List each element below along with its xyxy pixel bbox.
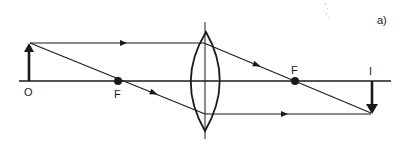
- ray-parallel-refracted: [204, 43, 371, 113]
- focal-point-right: [291, 77, 299, 85]
- ray-parallel-out-arrow-icon: [281, 111, 288, 117]
- ray-focal-arrow-icon: [149, 89, 159, 98]
- ray-refracted-arrow-icon: [252, 61, 262, 70]
- lens-ray-diagram: O F F I a): [0, 0, 404, 144]
- scan-noise: [325, 3, 329, 18]
- image-arrow-head-icon: [366, 104, 378, 114]
- image-label: I: [369, 65, 372, 77]
- panel-label: a): [377, 14, 387, 26]
- focus-right-label: F: [291, 64, 298, 76]
- object-label: O: [24, 86, 33, 98]
- focal-point-left: [114, 77, 122, 85]
- focus-left-label: F: [114, 88, 121, 100]
- ray-parallel-arrow-icon: [120, 40, 127, 46]
